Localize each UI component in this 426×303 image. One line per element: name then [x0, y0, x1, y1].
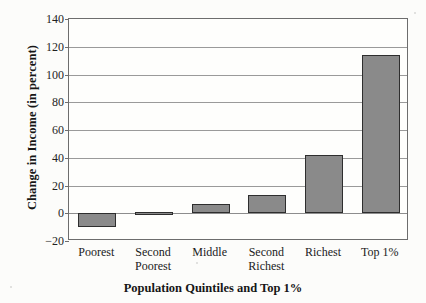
y-tick-mark — [65, 130, 69, 131]
bar — [305, 155, 343, 213]
scan-speckle — [196, 262, 198, 264]
bar-chart-figure: Change in Income (in percent) 1401201008… — [0, 0, 426, 303]
gridline — [69, 102, 407, 103]
y-tick-label: 20 — [52, 178, 64, 193]
scan-speckle — [10, 286, 12, 288]
y-tick-label: 40 — [52, 150, 64, 165]
x-tick-label: Poorest — [68, 245, 125, 259]
gridline — [69, 186, 407, 187]
y-tick-mark — [65, 241, 69, 242]
y-tick-mark — [65, 47, 69, 48]
y-tick-mark — [65, 213, 69, 214]
gridline — [69, 47, 407, 48]
y-tick-label: 60 — [52, 123, 64, 138]
y-tick-label: 100 — [46, 67, 64, 82]
x-tick-label: Top 1% — [351, 245, 408, 259]
x-axis-title: Population Quintiles and Top 1% — [0, 281, 426, 296]
y-axis-title: Change in Income (in percent) — [25, 8, 40, 248]
y-tick-label: 80 — [52, 95, 64, 110]
y-tick-label: −20 — [45, 234, 64, 249]
y-tick-mark — [65, 75, 69, 76]
y-tick-label: 0 — [58, 206, 64, 221]
bar — [78, 213, 116, 227]
y-tick-label: 120 — [46, 39, 64, 54]
y-tick-mark — [65, 158, 69, 159]
zero-line — [69, 213, 407, 214]
x-tick-label: Middle — [181, 245, 238, 259]
y-tick-mark — [65, 186, 69, 187]
gridline — [69, 75, 407, 76]
x-tick-label: SecondPoorest — [125, 245, 182, 273]
x-tick-label: SecondRichest — [238, 245, 295, 273]
y-tick-label: 140 — [46, 12, 64, 27]
scan-speckle — [414, 12, 416, 14]
y-tick-mark — [65, 102, 69, 103]
bar — [362, 55, 400, 213]
gridline — [69, 130, 407, 131]
bar — [192, 204, 230, 214]
y-tick-mark — [65, 19, 69, 20]
bar — [248, 195, 286, 213]
bar — [135, 212, 173, 215]
plot-area: 140120100806040200−20 — [68, 18, 408, 240]
gridline — [69, 158, 407, 159]
x-tick-label: Richest — [295, 245, 352, 259]
